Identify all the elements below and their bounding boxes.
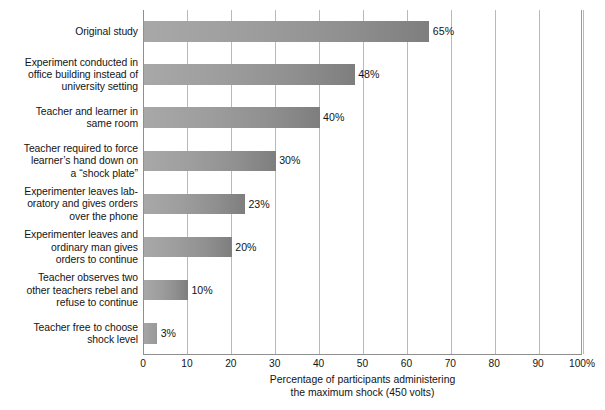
category-label: Teacher observes twoother teachers rebel… (0, 272, 138, 309)
bar[interactable] (144, 64, 355, 85)
category-label-line: Teacher required to force (0, 143, 138, 155)
x-axis-tick-label: 40 (299, 358, 339, 369)
bar-value-label: 10% (191, 282, 212, 299)
x-axis-tick-label: 60 (386, 358, 426, 369)
category-label-line: Original study (0, 26, 138, 38)
x-axis-title: Percentage of participants administering… (143, 374, 582, 399)
bar[interactable] (144, 323, 157, 344)
category-label: Experimenter leaves lab-oratory and give… (0, 186, 138, 223)
x-axis-tick-label: 20 (211, 358, 251, 369)
bar-wrapper (144, 312, 157, 355)
x-axis-tick-label: 80 (474, 358, 514, 369)
bar-wrapper (144, 96, 320, 139)
category-label-line: Experimenter leaves and (0, 229, 138, 241)
bar-chart: Original study65%Experiment conducted in… (0, 0, 605, 410)
category-label-line: same room (0, 118, 138, 130)
bar-value-label: 20% (235, 239, 256, 256)
bar-row: Teacher free to chooseshock level3% (0, 312, 605, 355)
category-label-line: orders to continue (0, 254, 138, 266)
bar-value-label: 40% (323, 109, 344, 126)
category-label-line: Experimenter leaves lab- (0, 186, 138, 198)
bar-value-label: 65% (433, 23, 454, 40)
bar-wrapper (144, 139, 276, 182)
category-label: Experimenter leaves andordinary man give… (0, 229, 138, 266)
category-label-line: learner’s hand down on (0, 155, 138, 167)
x-axis-title-line: Percentage of participants administering (143, 374, 582, 387)
category-label-line: Teacher observes two (0, 272, 138, 284)
bar-row: Experimenter leaves lab-oratory and give… (0, 183, 605, 226)
bar-value-label: 30% (279, 152, 300, 169)
category-label: Teacher required to forcelearner’s hand … (0, 143, 138, 180)
bar[interactable] (144, 21, 429, 42)
bar-row: Teacher required to forcelearner’s hand … (0, 139, 605, 182)
category-label: Teacher and learner insame room (0, 106, 138, 131)
x-axis-tick-label: 70 (430, 358, 470, 369)
x-axis-title-line: the maximum shock (450 volts) (143, 387, 582, 400)
bar-wrapper (144, 53, 355, 96)
bar-wrapper (144, 10, 429, 53)
category-label-line: over the phone (0, 211, 138, 223)
category-label: Teacher free to chooseshock level (0, 322, 138, 347)
category-label-line: Experiment conducted in (0, 57, 138, 69)
category-label-line: shock level (0, 334, 138, 346)
x-axis-tick-label: 50 (343, 358, 383, 369)
bar-row: Teacher observes twoother teachers rebel… (0, 269, 605, 312)
bar-value-label: 23% (248, 196, 269, 213)
category-label-line: refuse to continue (0, 297, 138, 309)
bar-row: Original study65% (0, 10, 605, 53)
bar[interactable] (144, 151, 276, 172)
bar-row: Experimenter leaves andordinary man give… (0, 226, 605, 269)
bar[interactable] (144, 237, 232, 258)
category-label: Experiment conducted inoffice building i… (0, 57, 138, 94)
bar-row: Teacher and learner insame room40% (0, 96, 605, 139)
x-axis-tick-label: 0 (123, 358, 163, 369)
category-label-line: oratory and gives orders (0, 198, 138, 210)
category-label-line: other teachers rebel and (0, 285, 138, 297)
category-label-line: Teacher free to choose (0, 322, 138, 334)
x-axis-tick-label: 30 (255, 358, 295, 369)
category-label-line: a “shock plate” (0, 168, 138, 180)
category-label-line: ordinary man gives (0, 242, 138, 254)
category-label: Original study (0, 26, 138, 38)
bar-wrapper (144, 183, 245, 226)
bar[interactable] (144, 280, 188, 301)
bar[interactable] (144, 194, 245, 215)
category-label-line: university setting (0, 81, 138, 93)
x-axis-tick-label: 100% (562, 358, 602, 369)
bar[interactable] (144, 107, 320, 128)
bar-row: Experiment conducted inoffice building i… (0, 53, 605, 96)
bar-value-label: 48% (358, 66, 379, 83)
bar-value-label: 3% (161, 325, 176, 342)
category-label-line: Teacher and learner in (0, 106, 138, 118)
category-label-line: office building instead of (0, 69, 138, 81)
bar-wrapper (144, 226, 232, 269)
bar-wrapper (144, 269, 188, 312)
x-axis-tick-label: 10 (167, 358, 207, 369)
x-axis-tick-label: 90 (518, 358, 558, 369)
